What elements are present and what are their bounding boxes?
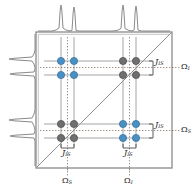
peak-dot <box>132 134 139 141</box>
axis-label-bottom-omega-s: ΩS <box>62 177 72 185</box>
peak-dot <box>70 57 77 64</box>
axis-label-right-omega-i: ΩI <box>181 63 190 71</box>
axis-label-right-omega-s: ΩS <box>181 126 191 134</box>
peak-dot <box>70 120 77 127</box>
spectrum-canvas <box>0 0 194 195</box>
peak-dot <box>132 57 139 64</box>
j-label-right-lower: JIS <box>155 121 164 129</box>
peak-dot <box>70 71 77 78</box>
j-label-right-upper: JIS <box>155 58 164 66</box>
peak-dot <box>119 71 126 78</box>
peak-dot <box>119 120 126 127</box>
top-projection-spectrum <box>38 5 170 31</box>
peak-dot <box>119 57 126 64</box>
peak-dot <box>132 120 139 127</box>
peak-dot <box>57 57 64 64</box>
axis-label-bottom-omega-i: ΩI <box>124 177 133 185</box>
peak-dot <box>57 134 64 141</box>
peak-dot <box>57 71 64 78</box>
j-label-bottom-left: JIS <box>62 149 71 157</box>
peak-dot <box>132 71 139 78</box>
peak-dot <box>119 134 126 141</box>
j-label-bottom-right: JIS <box>124 149 133 157</box>
peak-dot <box>70 134 77 141</box>
left-projection-spectrum <box>9 34 35 166</box>
nmr-2d-spectrum-figure: JIS JIS JIS JIS ΩS ΩI ΩI ΩS <box>0 0 194 195</box>
peak-dot <box>57 120 64 127</box>
